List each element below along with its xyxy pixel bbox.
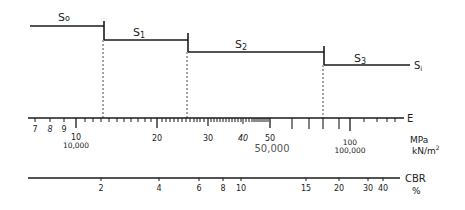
cbr-axis-name: CBR [405,173,426,184]
e-axis-unit-mpa: MPa [410,135,428,145]
e-tick-40: 40 [238,134,248,143]
cbr-tick-40: 40 [378,184,388,193]
layer-modulus-diagram: So S1 S2 S3 Si [0,0,465,210]
layer-label-s1: S1 [133,26,145,40]
layer-label-s0: So [58,11,70,24]
cbr-tick-10: 10 [236,184,246,193]
cbr-tick-6: 6 [196,184,201,193]
layer-label-si: Si [414,60,422,73]
e-axis-name: E [407,113,413,124]
layer-label-s2: S2 [235,38,247,52]
e-tick-20: 20 [152,134,162,143]
cbr-axis-unit: % [412,186,421,196]
e-secondary-100000: 100,000 [334,146,365,155]
layer-step-profile [30,21,410,65]
e-axis-unit-kn: kN/m2 [412,144,440,156]
cbr-tick-8: 8 [220,184,225,193]
e-tick-30: 30 [203,134,213,143]
cbr-tick-2: 2 [98,184,103,193]
cbr-tick-20: 20 [334,184,344,193]
cbr-tick-4: 4 [156,184,161,193]
e-secondary-50000: 50,000 [255,143,290,154]
cbr-axis-labels: 2 4 6 8 10 15 20 30 40 CBR % [98,173,425,196]
e-axis-labels: 7 8 9 10 10,000 20 30 40 50 50,000 100 1… [32,113,439,156]
e-tick-8: 8 [47,125,52,134]
e-tick-7: 7 [32,125,37,134]
e-tick-50: 50 [265,134,275,143]
cbr-axis [28,178,400,181]
layer-labels: So S1 S2 S3 Si [58,11,422,73]
cbr-tick-15: 15 [301,184,311,193]
e-tick-9: 9 [61,125,66,134]
e-axis [28,118,404,131]
e-secondary-10000: 10,000 [63,141,89,150]
cbr-tick-30: 30 [363,184,373,193]
layer-label-s3: S3 [354,52,366,66]
